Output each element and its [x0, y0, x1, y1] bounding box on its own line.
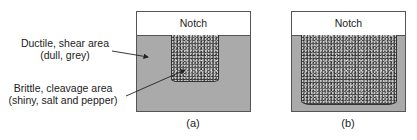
arrows — [0, 0, 417, 140]
ductile-arrow — [112, 51, 148, 57]
brittle-arrow — [126, 70, 185, 96]
